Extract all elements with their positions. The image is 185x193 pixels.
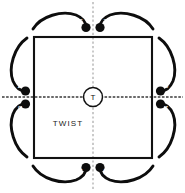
arrow-bottom-left: Z: [33, 163, 91, 182]
arrow-bottom-right-label: S: [103, 168, 108, 175]
arrow-left-lower-label: S: [18, 105, 23, 112]
arrow-top-right-stroke: [100, 13, 153, 29]
arrow-right-lower: Z: [156, 99, 175, 157]
arrow-top-right-label: Z: [103, 18, 108, 25]
arrow-left-lower-stroke: [11, 104, 27, 157]
arrow-bottom-right-stroke: [100, 166, 153, 182]
arrow-right-upper: S: [156, 38, 175, 96]
twist-caption: TWIST: [53, 119, 83, 128]
arrow-bottom-left-head: [81, 163, 90, 172]
arrow-bottom-left-label: Z: [78, 168, 83, 175]
arrow-left-upper-label: Z: [18, 82, 23, 89]
arrow-right-lower-label: Z: [164, 105, 169, 112]
arrow-left-upper: Z: [11, 38, 30, 96]
arrow-top-left-label: S: [78, 18, 83, 25]
arrow-top-left: S: [33, 13, 91, 32]
arrow-right-lower-stroke: [159, 104, 175, 157]
arrow-bottom-right: S: [95, 163, 153, 182]
arrow-right-upper-label: S: [164, 82, 169, 89]
arrow-left-upper-head: [21, 86, 30, 95]
arrow-top-right: Z: [95, 13, 153, 32]
twist-diagram-canvas: S Z Z S S Z: [0, 0, 185, 193]
arrow-left-lower: S: [11, 99, 30, 157]
center-axis-label: T: [91, 93, 96, 102]
twist-diagram: S Z Z S S Z: [0, 0, 185, 193]
